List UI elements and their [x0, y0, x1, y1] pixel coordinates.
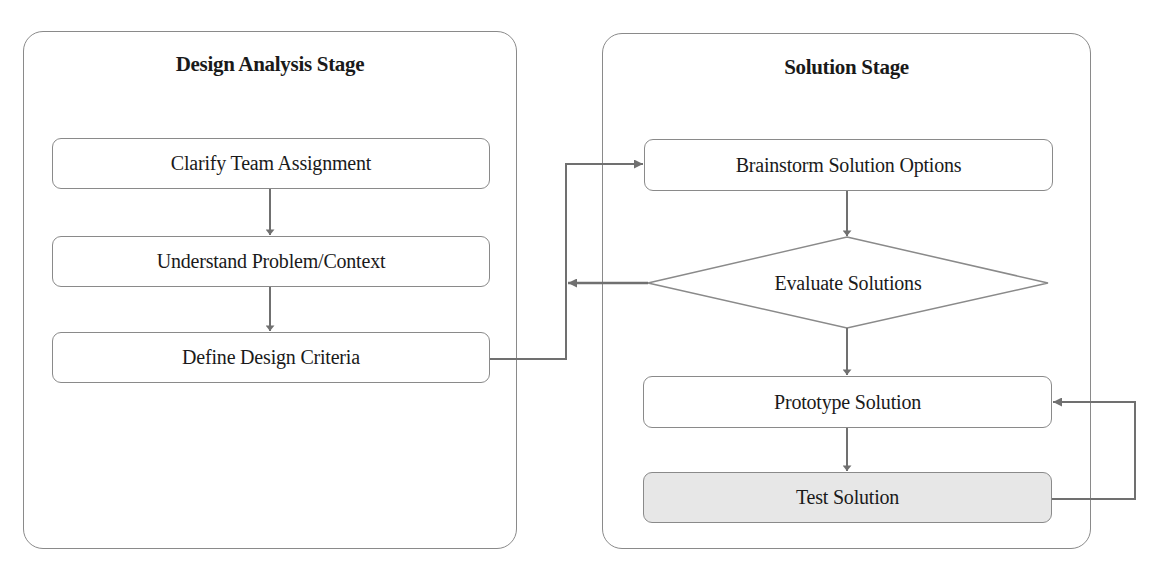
understand-problem-context-node: Understand Problem/Context — [52, 236, 490, 287]
prototype-solution-node: Prototype Solution — [643, 376, 1052, 428]
brainstorm-solution-options-node: Brainstorm Solution Options — [644, 139, 1053, 191]
solution-stage-title: Solution Stage — [603, 55, 1090, 80]
clarify-team-assignment-node: Clarify Team Assignment — [52, 138, 490, 189]
design-analysis-stage-panel: Design Analysis Stage — [23, 31, 517, 549]
evaluate-solutions-label: Evaluate Solutions — [698, 264, 998, 302]
design-analysis-stage-title: Design Analysis Stage — [24, 52, 516, 77]
test-solution-node: Test Solution — [643, 472, 1052, 523]
define-design-criteria-node: Define Design Criteria — [52, 332, 490, 383]
